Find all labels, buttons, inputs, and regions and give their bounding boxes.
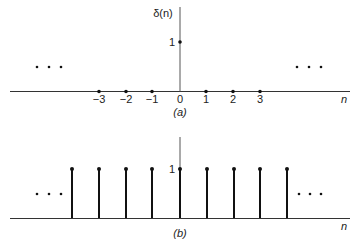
svg-text:−3: −3: [93, 93, 106, 105]
svg-text:0: 0: [177, 93, 183, 105]
svg-text:1: 1: [203, 93, 209, 105]
x-axis-label: n: [341, 220, 347, 232]
y-tick-one: 1: [169, 36, 175, 48]
caption-b: (b): [173, 227, 187, 239]
ellipsis-left: [36, 193, 63, 196]
y-tick-one: 1: [169, 163, 175, 175]
svg-text:3: 3: [257, 93, 263, 105]
ellipsis-right: [298, 193, 323, 196]
svg-text:−1: −1: [146, 93, 159, 105]
impulse-point: [178, 40, 182, 44]
ellipsis-right: [296, 66, 323, 69]
panel-a: δ(n) 1 −3 −2 −1 0 1 2 3 n (a): [10, 7, 350, 118]
x-axis-label: n: [341, 93, 347, 105]
stem-heads: [70, 167, 289, 171]
svg-text:−2: −2: [120, 93, 133, 105]
x-tick-labels: −3 −2 −1 0 1 2 3: [93, 93, 263, 105]
panel-b: 1 n (b): [10, 137, 350, 239]
y-axis-label: δ(n): [153, 7, 173, 19]
stems: [72, 169, 287, 218]
figure: δ(n) 1 −3 −2 −1 0 1 2 3 n (a): [0, 0, 358, 248]
ellipsis-left: [36, 66, 63, 69]
svg-text:2: 2: [230, 93, 236, 105]
caption-a: (a): [173, 106, 187, 118]
